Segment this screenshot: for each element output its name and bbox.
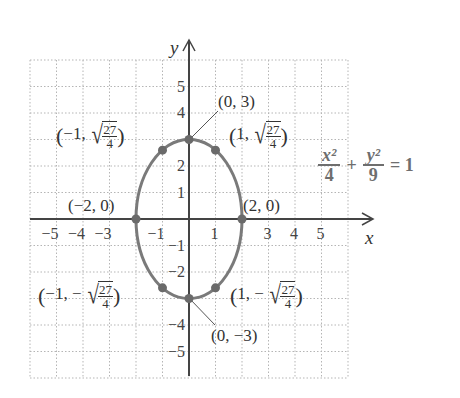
data-point [238,215,247,224]
sqrt-icon: √274 [268,281,295,310]
label-point-upper-right: (1, √274) [229,121,288,150]
x-tick-label: 4 [290,226,298,242]
data-point [185,135,194,144]
y-axis-label: y [170,38,178,57]
label-point-top: (0, 3) [218,93,255,110]
leader-bottom [189,298,215,325]
leader-top [189,111,218,140]
label-point-right: (2, 0) [243,197,280,214]
x-tick-label: −1 [148,226,165,242]
y-tick-label: −2 [168,264,185,280]
data-point [158,146,167,155]
label-point-bottom: (0, −3) [211,327,257,344]
data-point [132,215,141,224]
plus-sign: + [346,155,356,176]
sqrt-icon: √274 [86,281,113,310]
label-point-lower-right: (1, − √274) [230,281,303,310]
x-term: x²4 [318,146,340,184]
x-tick-label: −3 [95,226,112,242]
y-term: y²9 [363,146,384,184]
label-point-left: (−2, 0) [68,197,114,214]
data-point [211,146,220,155]
data-point [158,283,167,292]
x-tick-label: −4 [68,226,85,242]
y-tick-label: 2 [177,158,185,174]
label-point-lower-left: (−1, − √274) [38,281,120,310]
label-point-upper-left: (−1, √274) [56,121,125,150]
equation-rhs: = 1 [390,155,414,176]
sqrt-icon: √274 [253,121,280,150]
y-tick-label: 4 [177,105,185,121]
x-axis-label: x [365,228,373,247]
x-tick-label: 1 [211,226,219,242]
y-tick-label: −4 [168,317,185,333]
y-tick-label: −5 [168,344,185,360]
y-tick-label: 5 [177,79,185,95]
ellipse-equation: x²4 + y²9 = 1 [318,146,414,184]
data-point [185,294,194,303]
x-tick-label: 3 [264,226,272,242]
sqrt-icon: √274 [90,121,117,150]
y-tick-label: −1 [168,238,185,254]
x-tick-label: 5 [317,226,325,242]
x-tick-label: −5 [42,226,59,242]
data-point [211,283,220,292]
y-tick-label: 1 [177,185,185,201]
